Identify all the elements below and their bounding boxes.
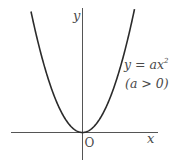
condition-label: (a > 0) — [125, 76, 169, 91]
parabola-diagram: y x O y = ax2 (a > 0) — [0, 0, 177, 166]
equation-label: y = ax2 — [123, 57, 169, 72]
y-axis-label: y — [72, 8, 81, 23]
origin-label: O — [85, 136, 95, 150]
x-axis-label: x — [147, 131, 155, 146]
equation-exponent: 2 — [163, 57, 169, 65]
equation-text: y = ax — [123, 57, 164, 72]
